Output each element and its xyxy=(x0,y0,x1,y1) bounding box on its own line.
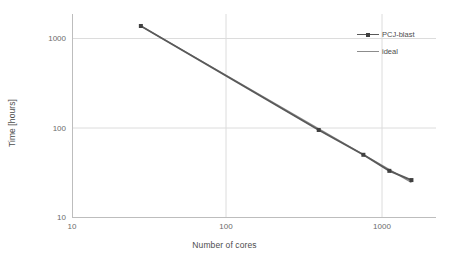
data-point-marker xyxy=(409,178,413,182)
x-tick-label-1000: 1000 xyxy=(373,222,391,231)
x-axis-title: Number of cores xyxy=(0,240,449,250)
legend-swatch-line-icon xyxy=(357,47,379,57)
y-tick-label-10: 10 xyxy=(32,213,66,222)
chart-figure: 1000 100 10 10 100 1000 Number of cores … xyxy=(0,0,449,268)
chart-legend: PCJ-blast ideal xyxy=(357,26,415,60)
data-point-marker xyxy=(387,169,391,173)
legend-label-pcj-blast: PCJ-blast xyxy=(382,31,415,39)
legend-item-pcj-blast[interactable]: PCJ-blast xyxy=(357,26,415,43)
data-point-marker xyxy=(139,24,143,28)
legend-item-ideal[interactable]: ideal xyxy=(357,43,415,60)
data-point-marker xyxy=(361,153,365,157)
legend-label-ideal: ideal xyxy=(382,48,398,56)
y-tick-label-1000: 1000 xyxy=(32,34,66,43)
legend-swatch-line-marker-icon xyxy=(357,30,379,40)
data-point-marker xyxy=(317,128,321,132)
y-tick-label-100: 100 xyxy=(32,124,66,133)
x-tick-label-10: 10 xyxy=(68,222,77,231)
x-tick-label-100: 100 xyxy=(219,222,232,231)
y-axis-title: Time [hours] xyxy=(7,78,17,168)
